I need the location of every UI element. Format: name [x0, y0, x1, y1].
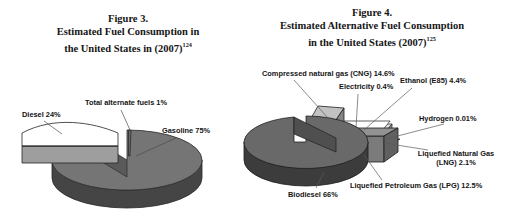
label-electricity: Electricity 0.4% [339, 82, 393, 91]
label-biodiesel: Biodiesel 66% [288, 190, 338, 199]
figure-3: Figure 3. Estimated Fuel Consumption in … [0, 0, 256, 216]
figure-3-pie-chart [0, 0, 256, 216]
label-lng-line-1: Liquefied Natural Gas [418, 149, 494, 158]
label-ethanol: Ethanol (E85) 4.4% [400, 76, 466, 85]
label-lpg: Liquefied Petroleum Gas (LPG) 12.5% [350, 181, 482, 190]
leader-line-total-alternate [121, 110, 130, 130]
label-lng: Liquefied Natural Gas (LNG) 2.1% [408, 149, 504, 168]
label-diesel: Diesel 24% [22, 110, 61, 119]
label-hydrogen: Hydrogen 0.01% [419, 114, 477, 123]
label-total-alternate-fuels: Total alternate fuels 1% [85, 98, 167, 107]
leader-line-cng [294, 80, 328, 118]
slice-biodiesel [244, 116, 368, 186]
slice-diesel [22, 122, 118, 163]
label-cng: Compressed natural gas (CNG) 14.6% [262, 69, 395, 78]
label-lng-line-2: (LNG) 2.1% [436, 158, 475, 167]
label-gasoline: Gasoline 75% [162, 126, 210, 135]
figure-4: Figure 4. Estimated Alternative Fuel Con… [232, 0, 512, 216]
